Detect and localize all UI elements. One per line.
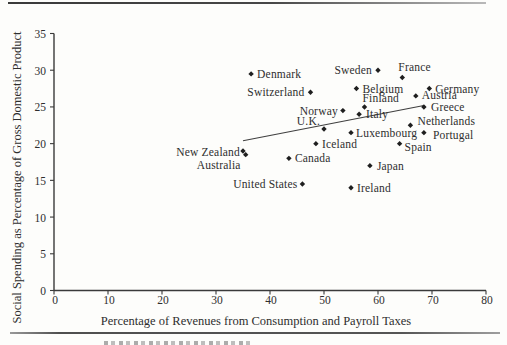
point-label-canada: Canada — [295, 152, 331, 164]
y-tick-label-35: 35 — [35, 28, 47, 40]
bottom-rule — [10, 332, 500, 334]
point-label-austria: Austria — [422, 89, 457, 101]
cropped-caption-fragment — [104, 341, 250, 345]
point-marker-united-states — [300, 181, 305, 186]
point-label-japan: Japan — [377, 160, 404, 173]
point-marker-u-k — [321, 126, 326, 131]
point-label-italy: Italy — [366, 108, 388, 121]
point-label-greece: Greece — [431, 101, 465, 113]
y-tick-label-25: 25 — [35, 101, 47, 113]
point-label-sweden: Sweden — [334, 64, 372, 76]
point-label-united-states: United States — [233, 178, 298, 190]
point-marker-spain — [397, 141, 402, 146]
point-marker-belgium — [354, 86, 359, 91]
point-label-spain: Spain — [405, 141, 432, 154]
x-tick-label-20: 20 — [157, 294, 169, 306]
scatter-plot: 0102030405060708005101520253035DenmarkSw… — [0, 0, 507, 345]
x-tick-label-10: 10 — [103, 294, 115, 306]
point-label-switzerland: Switzerland — [247, 86, 304, 98]
y-tick-label-20: 20 — [35, 138, 47, 150]
y-tick-label-5: 5 — [40, 248, 46, 260]
point-label-ireland: Ireland — [357, 182, 391, 194]
point-marker-iceland — [313, 141, 318, 146]
point-label-portugal: Portugal — [433, 129, 474, 142]
x-tick-label-0: 0 — [52, 294, 58, 306]
point-marker-canada — [286, 156, 291, 161]
x-tick-label-30: 30 — [211, 294, 223, 306]
x-axis-title: Percentage of Revenues from Consumption … — [36, 314, 476, 329]
point-marker-italy — [356, 112, 361, 117]
point-marker-denmark — [248, 71, 253, 76]
point-marker-austria — [413, 93, 418, 98]
point-label-u-k: U.K. — [297, 115, 320, 127]
point-marker-japan — [367, 163, 372, 168]
y-tick-label-0: 0 — [40, 285, 46, 297]
point-label-finland: Finland — [363, 92, 400, 104]
x-tick-label-50: 50 — [319, 294, 331, 306]
point-label-iceland: Iceland — [322, 138, 357, 150]
x-tick-label-40: 40 — [265, 294, 277, 306]
point-marker-greece — [421, 104, 426, 109]
point-marker-switzerland — [308, 90, 313, 95]
y-tick-label-30: 30 — [35, 65, 47, 77]
point-marker-luxembourg — [348, 130, 353, 135]
point-label-france: France — [398, 61, 431, 73]
point-marker-sweden — [375, 68, 380, 73]
point-label-netherlands: Netherlands — [417, 115, 475, 127]
x-tick-label-70: 70 — [427, 294, 439, 306]
point-marker-france — [400, 75, 405, 80]
x-tick-label-80: 80 — [481, 294, 493, 306]
point-label-denmark: Denmark — [257, 68, 301, 80]
point-marker-portugal — [421, 130, 426, 135]
point-marker-norway — [340, 108, 345, 113]
point-label-luxembourg: Luxembourg — [356, 127, 417, 140]
y-tick-label-15: 15 — [35, 175, 47, 187]
point-marker-ireland — [348, 185, 353, 190]
point-label-new-zealand: New Zealand — [176, 146, 240, 158]
x-tick-label-60: 60 — [373, 294, 385, 306]
y-tick-label-10: 10 — [35, 212, 47, 224]
y-axis-title: Social Spending as Percentage of Gross D… — [10, 13, 25, 343]
point-label-australia: Australia — [197, 159, 241, 171]
